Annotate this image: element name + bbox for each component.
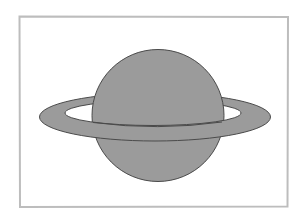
illustration-frame: [0, 0, 305, 215]
planet-body: [92, 50, 224, 182]
saturn-illustration: [0, 0, 305, 215]
